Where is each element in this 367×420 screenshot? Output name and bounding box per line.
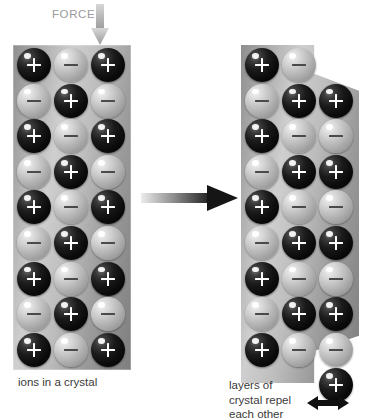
minus-icon xyxy=(329,272,343,286)
ion-positive xyxy=(282,155,316,189)
plus-icon xyxy=(329,94,343,108)
arrow-left-right-icon xyxy=(307,395,349,411)
ion-positive xyxy=(91,48,125,82)
ion-negative xyxy=(319,262,353,296)
plus-icon xyxy=(329,236,343,250)
plus-icon xyxy=(329,165,343,179)
ion-negative xyxy=(54,119,88,153)
plus-icon xyxy=(27,58,41,72)
plus-icon xyxy=(27,272,41,286)
ion-positive xyxy=(17,48,51,82)
ion-negative xyxy=(91,226,125,260)
caption-line-2: crystal repel xyxy=(229,393,291,408)
plus-icon xyxy=(64,165,78,179)
ion-negative xyxy=(91,297,125,331)
minus-icon xyxy=(292,343,306,357)
plus-icon xyxy=(27,343,41,357)
ion-negative xyxy=(17,297,51,331)
minus-icon xyxy=(329,129,343,143)
ion-positive xyxy=(91,119,125,153)
plus-icon xyxy=(255,272,269,286)
plus-icon xyxy=(292,94,306,108)
ion-positive xyxy=(54,226,88,260)
plus-icon xyxy=(329,307,343,321)
plus-icon xyxy=(101,58,115,72)
minus-icon xyxy=(101,307,115,321)
ion-positive xyxy=(54,155,88,189)
ion-negative xyxy=(319,333,353,367)
ion-negative xyxy=(245,297,279,331)
arrow-right-icon xyxy=(141,183,239,213)
ion-positive xyxy=(319,84,353,118)
ion-positive xyxy=(245,333,279,367)
plus-icon xyxy=(255,129,269,143)
diagram-canvas: FORCE xyxy=(0,0,367,420)
ion-positive xyxy=(282,226,316,260)
plus-icon xyxy=(292,307,306,321)
ion-positive xyxy=(54,84,88,118)
ion-negative xyxy=(319,119,353,153)
ion-negative xyxy=(54,262,88,296)
plus-icon xyxy=(255,343,269,357)
plus-icon xyxy=(27,200,41,214)
plus-icon xyxy=(329,378,343,392)
minus-icon xyxy=(255,94,269,108)
minus-icon xyxy=(64,272,78,286)
plus-icon xyxy=(101,272,115,286)
minus-icon xyxy=(27,307,41,321)
minus-icon xyxy=(64,129,78,143)
plus-icon xyxy=(101,200,115,214)
ion-negative xyxy=(54,333,88,367)
ion-negative xyxy=(17,155,51,189)
ion-negative xyxy=(17,84,51,118)
minus-icon xyxy=(27,236,41,250)
plus-icon xyxy=(255,58,269,72)
ion-positive xyxy=(282,84,316,118)
minus-icon xyxy=(64,343,78,357)
plus-icon xyxy=(27,129,41,143)
ion-positive xyxy=(319,155,353,189)
ion-positive xyxy=(245,48,279,82)
ion-positive xyxy=(17,333,51,367)
ion-positive xyxy=(245,119,279,153)
caption-line-1: layers of xyxy=(229,378,291,393)
ion-positive xyxy=(319,297,353,331)
minus-icon xyxy=(64,200,78,214)
arrow-down-icon xyxy=(90,4,110,46)
ion-positive xyxy=(91,262,125,296)
ion-negative xyxy=(91,84,125,118)
crystal-undisturbed xyxy=(13,45,131,370)
minus-icon xyxy=(292,129,306,143)
force-label: FORCE xyxy=(52,8,95,20)
ion-negative xyxy=(245,155,279,189)
minus-icon xyxy=(329,343,343,357)
plus-icon xyxy=(292,165,306,179)
ion-positive xyxy=(17,119,51,153)
minus-icon xyxy=(255,307,269,321)
plus-icon xyxy=(64,94,78,108)
plus-icon xyxy=(64,236,78,250)
ion-positive xyxy=(319,226,353,260)
plus-icon xyxy=(64,307,78,321)
ion-negative xyxy=(91,155,125,189)
plus-icon xyxy=(101,343,115,357)
minus-icon xyxy=(101,165,115,179)
minus-icon xyxy=(101,94,115,108)
minus-icon xyxy=(27,165,41,179)
caption-line-3: each other xyxy=(229,407,291,420)
minus-icon xyxy=(27,94,41,108)
minus-icon xyxy=(64,58,78,72)
ion-negative xyxy=(17,226,51,260)
crystal-displaced xyxy=(241,45,359,383)
minus-icon xyxy=(255,236,269,250)
ion-negative xyxy=(282,333,316,367)
ion-negative xyxy=(245,84,279,118)
minus-icon xyxy=(292,272,306,286)
caption-layers-repel: layers of crystal repel each other xyxy=(229,378,291,420)
ion-positive xyxy=(91,333,125,367)
ion-negative xyxy=(282,119,316,153)
caption-ions-in-crystal: ions in a crystal xyxy=(18,375,97,390)
ion-positive xyxy=(54,297,88,331)
ion-negative xyxy=(282,262,316,296)
ion-negative xyxy=(282,48,316,82)
